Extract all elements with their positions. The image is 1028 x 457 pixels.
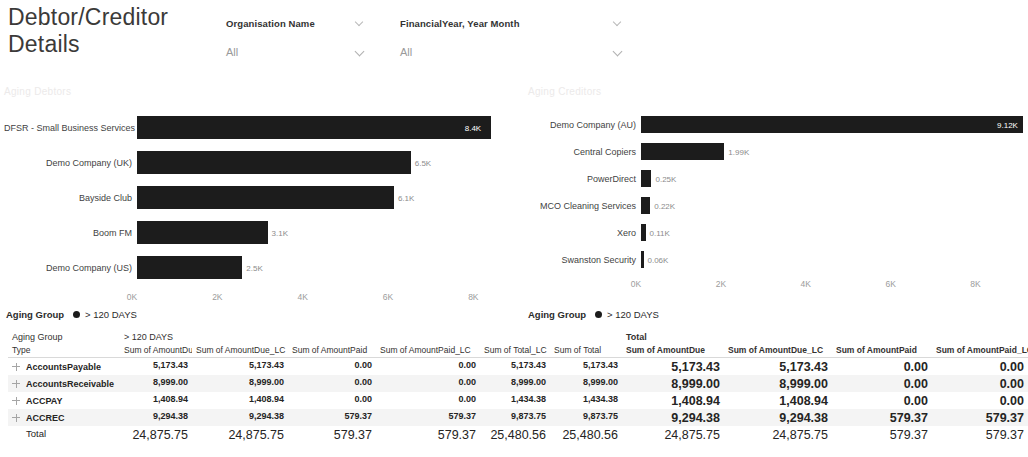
- bar[interactable]: [137, 256, 242, 279]
- matrix-grid: Aging Group> 120 DAYSTotalTypeSum of Amo…: [8, 330, 1022, 444]
- bar[interactable]: [641, 116, 1023, 133]
- slicer-organisation-name-value: All: [226, 46, 238, 58]
- bar-track: 3.1K: [137, 219, 516, 246]
- chevron-down-icon[interactable]: [613, 47, 624, 58]
- bar[interactable]: [137, 116, 491, 139]
- bar-row[interactable]: Demo Company (UK)6.5K: [4, 149, 516, 176]
- aging-creditors-x-axis: 0K2K4K6K8K: [528, 276, 1018, 292]
- matrix-group-spacer: [932, 330, 1028, 343]
- bar-track: 0.06K: [641, 249, 1018, 270]
- bar[interactable]: [641, 143, 724, 160]
- matrix-column-header[interactable]: Sum of AmountPaid: [832, 343, 932, 358]
- aging-debtors-chart[interactable]: Aging Debtors DFSR - Small Business Serv…: [4, 86, 516, 301]
- matrix-cell: 8,999.00: [192, 375, 288, 392]
- matrix-cell: 0.00: [832, 375, 932, 392]
- matrix-total-cell: 24,875.75: [622, 426, 724, 444]
- bar[interactable]: [137, 186, 394, 209]
- bar-row[interactable]: Central Copiers1.99K: [528, 141, 1018, 162]
- legend-category-label[interactable]: > 120 DAYS: [85, 309, 137, 320]
- matrix-column-header[interactable]: Sum of AmountDue_LC: [724, 343, 832, 358]
- matrix-row-label[interactable]: ACCPAY: [8, 392, 120, 409]
- matrix-cell: 8,999.00: [622, 375, 724, 392]
- bar-value-label: 0.11K: [650, 228, 670, 237]
- matrix-column-header[interactable]: Sum of AmountDue_LC: [192, 343, 288, 358]
- axis-tick-label: 6K: [885, 279, 895, 289]
- page-title: Debtor/Creditor Details: [8, 4, 208, 58]
- legend-category-label[interactable]: > 120 DAYS: [607, 309, 659, 320]
- matrix-total-cell: 579.37: [832, 426, 932, 444]
- expand-plus-icon[interactable]: [12, 397, 20, 405]
- bar-row[interactable]: DFSR - Small Business Services8.4K: [4, 114, 516, 141]
- bar[interactable]: [641, 197, 650, 214]
- matrix-column-header[interactable]: Sum of AmountDue: [622, 343, 724, 358]
- slicer-financial-year-dropdown[interactable]: All: [400, 46, 624, 58]
- bar-row[interactable]: Xero0.11K: [528, 222, 1018, 243]
- bar-row[interactable]: Demo Company (US)2.5K: [4, 254, 516, 281]
- matrix-column-header[interactable]: Sum of AmountPaid: [288, 343, 376, 358]
- bar[interactable]: [641, 224, 646, 241]
- legend-marker-icon: [73, 311, 80, 318]
- matrix-row-label[interactable]: AccountsPayable: [8, 358, 120, 375]
- matrix-cell: 579.37: [932, 409, 1028, 426]
- bar[interactable]: [137, 221, 268, 244]
- matrix-row-header-label[interactable]: Type: [8, 343, 120, 358]
- bar-value-label: 0.25K: [655, 174, 676, 183]
- bar-category-label: Xero: [528, 228, 641, 238]
- matrix-total-cell: 24,875.75: [192, 426, 288, 444]
- matrix-total-cell: 25,480.56: [550, 426, 622, 444]
- matrix-column-header[interactable]: Sum of AmountPaid_LC: [376, 343, 480, 358]
- axis-tick-label: 8K: [970, 279, 980, 289]
- matrix-cell: 0.00: [376, 392, 480, 409]
- bar-category-label: DFSR - Small Business Services: [4, 123, 137, 133]
- details-matrix[interactable]: Aging Group> 120 DAYSTotalTypeSum of Amo…: [8, 330, 1022, 444]
- bar-row[interactable]: PowerDirect0.25K: [528, 168, 1018, 189]
- matrix-column-group-header: Total: [622, 330, 724, 343]
- matrix-column-header[interactable]: Sum of Total: [550, 343, 622, 358]
- bar-category-label: MCO Cleaning Services: [528, 201, 641, 211]
- bar[interactable]: [137, 151, 411, 174]
- matrix-column-header[interactable]: Sum of AmountDue: [120, 343, 192, 358]
- expand-plus-icon[interactable]: [12, 380, 20, 388]
- matrix-cell: 1,434.38: [550, 392, 622, 409]
- bar-row[interactable]: MCO Cleaning Services0.22K: [528, 195, 1018, 216]
- legend-field-label: Aging Group: [528, 309, 586, 320]
- matrix-cell: 0.00: [376, 358, 480, 375]
- chevron-down-icon[interactable]: [355, 18, 366, 29]
- expand-plus-icon[interactable]: [12, 414, 20, 422]
- matrix-column-header[interactable]: Sum of AmountPaid_LC: [932, 343, 1028, 358]
- aging-debtors-x-axis: 0K2K4K6K8K: [4, 289, 516, 305]
- bar-row[interactable]: Bayside Club6.1K: [4, 184, 516, 211]
- chevron-down-icon[interactable]: [613, 18, 624, 29]
- expand-plus-icon[interactable]: [12, 363, 20, 371]
- bar-track: 6.1K: [137, 184, 516, 211]
- matrix-cell: 1,408.94: [192, 392, 288, 409]
- bar-track: 6.5K: [137, 149, 516, 176]
- slicer-financial-year-label: FinancialYear, Year Month: [400, 18, 520, 29]
- axis-tick-label: 2K: [716, 279, 726, 289]
- axis-tick-label: 2K: [212, 292, 222, 302]
- bar[interactable]: [641, 170, 651, 187]
- bar[interactable]: [641, 251, 644, 268]
- bar-row[interactable]: Swanston Security0.06K: [528, 249, 1018, 270]
- slicer-financial-year[interactable]: FinancialYear, Year Month All: [400, 18, 624, 58]
- matrix-row-label[interactable]: ACCREC: [8, 409, 120, 426]
- matrix-cell: 9,294.38: [724, 409, 832, 426]
- bar-row[interactable]: Demo Company (AU)9.12K: [528, 114, 1018, 135]
- matrix-cell: 1,408.94: [622, 392, 724, 409]
- matrix-row-label[interactable]: AccountsReceivable: [8, 375, 120, 392]
- matrix-cell: 5,173.43: [724, 358, 832, 375]
- matrix-cell: 579.37: [288, 409, 376, 426]
- matrix-cell: 9,873.75: [550, 409, 622, 426]
- matrix-cell: 0.00: [932, 375, 1028, 392]
- aging-creditors-plot: Demo Company (AU)9.12KCentral Copiers1.9…: [528, 114, 1018, 270]
- chevron-down-icon[interactable]: [355, 47, 366, 58]
- slicer-organisation-name[interactable]: Organisation Name All: [226, 18, 366, 58]
- bar-value-label: 1.99K: [728, 147, 749, 156]
- aging-debtors-legend: Aging Group > 120 DAYS: [6, 309, 137, 320]
- slicer-organisation-name-dropdown[interactable]: All: [226, 46, 366, 58]
- bar-row[interactable]: Boom FM3.1K: [4, 219, 516, 246]
- matrix-column-header[interactable]: Sum of Total_LC: [480, 343, 550, 358]
- bar-category-label: Demo Company (AU): [528, 120, 641, 130]
- matrix-cell: 5,173.43: [550, 358, 622, 375]
- aging-creditors-chart[interactable]: Aging Creditors Demo Company (AU)9.12KCe…: [528, 86, 1018, 301]
